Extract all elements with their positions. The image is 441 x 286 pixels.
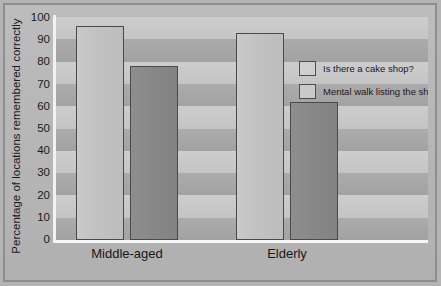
legend-swatch-series-1 — [299, 84, 316, 99]
y-tick-label: 30 — [22, 167, 50, 177]
legend-label-series-0: Is there a cake shop? — [323, 63, 414, 74]
legend: Is there a cake shop? Mental walk listin… — [299, 59, 428, 105]
bar — [76, 26, 124, 240]
y-tick-label: 100 — [22, 12, 50, 22]
x-axis-category-labels: Middle-agedElderly — [56, 246, 428, 268]
bar — [236, 33, 284, 240]
bar — [290, 102, 338, 240]
y-tick-label: 0 — [22, 234, 50, 244]
y-tick-label: 80 — [22, 56, 50, 66]
x-axis-line — [53, 240, 428, 243]
bar-group-container — [56, 17, 428, 240]
legend-swatch-series-0 — [299, 61, 316, 76]
y-axis-tick-labels: 1009080706050403020100 — [22, 17, 50, 239]
y-tick-label: 20 — [22, 190, 50, 200]
y-tick-label: 10 — [22, 212, 50, 222]
y-tick-label: 70 — [22, 79, 50, 89]
legend-label-series-1: Mental walk listing the shops — [323, 86, 428, 97]
x-category-label: Middle-aged — [57, 246, 197, 261]
bar — [130, 66, 178, 240]
y-tick-label: 90 — [22, 34, 50, 44]
legend-item: Mental walk listing the shops — [299, 82, 428, 101]
plot-area: Is there a cake shop? Mental walk listin… — [56, 17, 428, 240]
x-category-label: Elderly — [217, 246, 357, 261]
legend-item: Is there a cake shop? — [299, 59, 428, 78]
y-tick-label: 50 — [22, 123, 50, 133]
y-axis-title: Percentage of locations remembered corre… — [10, 11, 22, 261]
y-tick-label: 40 — [22, 145, 50, 155]
y-tick-label: 60 — [22, 101, 50, 111]
figure: Percentage of locations remembered corre… — [0, 0, 441, 286]
